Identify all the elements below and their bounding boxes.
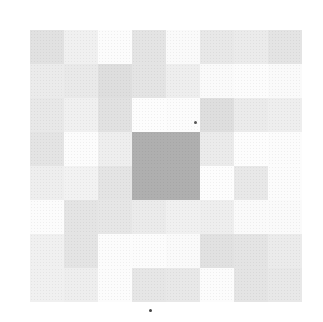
tile-grid xyxy=(30,30,302,302)
grid-cell xyxy=(268,166,302,200)
grid-cell xyxy=(268,64,302,98)
grid-cell xyxy=(200,98,234,132)
grid-cell xyxy=(30,200,64,234)
grid-cell xyxy=(166,234,200,268)
grid-cell xyxy=(200,132,234,166)
grid-cell xyxy=(166,166,200,200)
marker-dot-2 xyxy=(149,309,152,312)
grid-cell xyxy=(200,268,234,302)
grid-cell xyxy=(98,200,132,234)
grid-cell xyxy=(200,166,234,200)
grid-cell xyxy=(234,200,268,234)
grid-cell xyxy=(200,234,234,268)
grid-cell xyxy=(234,166,268,200)
grid-cell xyxy=(200,200,234,234)
grid-cell xyxy=(200,30,234,64)
marker-dot-1 xyxy=(194,121,197,124)
grid-cell xyxy=(132,200,166,234)
grid-cell xyxy=(166,200,200,234)
grid-cell xyxy=(30,30,64,64)
grid-cell xyxy=(132,98,166,132)
image-canvas xyxy=(0,0,323,322)
grid-cell xyxy=(268,234,302,268)
grid-cell xyxy=(234,234,268,268)
grid-cell xyxy=(234,98,268,132)
grid-cell xyxy=(64,64,98,98)
grid-cell xyxy=(98,166,132,200)
grid-cell xyxy=(268,98,302,132)
grid-cell xyxy=(30,64,64,98)
grid-cell xyxy=(30,268,64,302)
grid-cell xyxy=(132,166,166,200)
grid-cell xyxy=(98,132,132,166)
grid-cell xyxy=(200,64,234,98)
grid-cell xyxy=(132,268,166,302)
grid-cell xyxy=(234,132,268,166)
grid-cell xyxy=(166,98,200,132)
grid-cell xyxy=(234,64,268,98)
grid-cell xyxy=(166,64,200,98)
grid-cell xyxy=(132,132,166,166)
grid-cell xyxy=(30,98,64,132)
grid-cell xyxy=(132,64,166,98)
grid-cell xyxy=(30,234,64,268)
grid-cell xyxy=(98,64,132,98)
grid-cell xyxy=(64,268,98,302)
grid-cell xyxy=(64,132,98,166)
grid-cell xyxy=(268,200,302,234)
grid-cell xyxy=(98,98,132,132)
grid-cell xyxy=(98,234,132,268)
grid-cell xyxy=(64,98,98,132)
grid-cell xyxy=(98,30,132,64)
grid-cell xyxy=(234,30,268,64)
grid-cell xyxy=(64,30,98,64)
grid-cell xyxy=(64,234,98,268)
grid-cell xyxy=(268,268,302,302)
grid-cell xyxy=(64,200,98,234)
grid-cell xyxy=(30,166,64,200)
grid-cell xyxy=(30,132,64,166)
grid-cell xyxy=(64,166,98,200)
grid-cell xyxy=(166,132,200,166)
grid-cell xyxy=(166,268,200,302)
grid-cell xyxy=(166,30,200,64)
grid-cell xyxy=(132,30,166,64)
grid-cell xyxy=(234,268,268,302)
grid-cell xyxy=(268,132,302,166)
grid-cell xyxy=(98,268,132,302)
grid-cell xyxy=(132,234,166,268)
grid-cell xyxy=(268,30,302,64)
